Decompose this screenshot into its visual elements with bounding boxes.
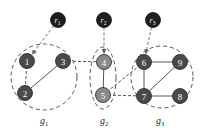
- node-label: 2: [23, 89, 28, 99]
- node-label: 5: [101, 91, 106, 101]
- arrow-r3-to-6: [146, 27, 152, 53]
- group-label-g3: g3: [156, 115, 164, 127]
- group-label-g1: g1: [40, 115, 48, 127]
- root-node-r2: r2: [97, 13, 112, 28]
- node-label: 1: [25, 57, 30, 67]
- node-5: 5: [96, 88, 111, 103]
- node-4: 4: [97, 55, 112, 70]
- node-9: 9: [173, 55, 188, 70]
- cluster-graph-diagram: 123456789 r1r2r3 g1g2g3: [0, 0, 208, 138]
- root-arrows: [32, 26, 151, 54]
- node-label: 7: [142, 92, 147, 102]
- node-1: 1: [20, 54, 35, 69]
- group-labels: g1g2g3: [40, 115, 164, 127]
- root-nodes: r1r2r3: [51, 13, 161, 28]
- node-label: 9: [178, 58, 183, 68]
- root-node-r3: r3: [146, 13, 161, 28]
- node-7: 7: [137, 89, 152, 104]
- root-node-r1: r1: [51, 13, 66, 28]
- node-label: 8: [178, 92, 183, 102]
- node-3: 3: [56, 54, 71, 69]
- graph-svg: 123456789 r1r2r3 g1g2g3: [0, 0, 208, 138]
- node-label: 3: [61, 57, 66, 67]
- arrow-r1-to-1: [32, 26, 53, 54]
- group-label-g2: g2: [100, 115, 108, 127]
- node-label: 4: [102, 58, 107, 68]
- node-2: 2: [18, 86, 33, 101]
- node-8: 8: [173, 89, 188, 104]
- node-label: 6: [142, 58, 147, 68]
- node-6: 6: [137, 55, 152, 70]
